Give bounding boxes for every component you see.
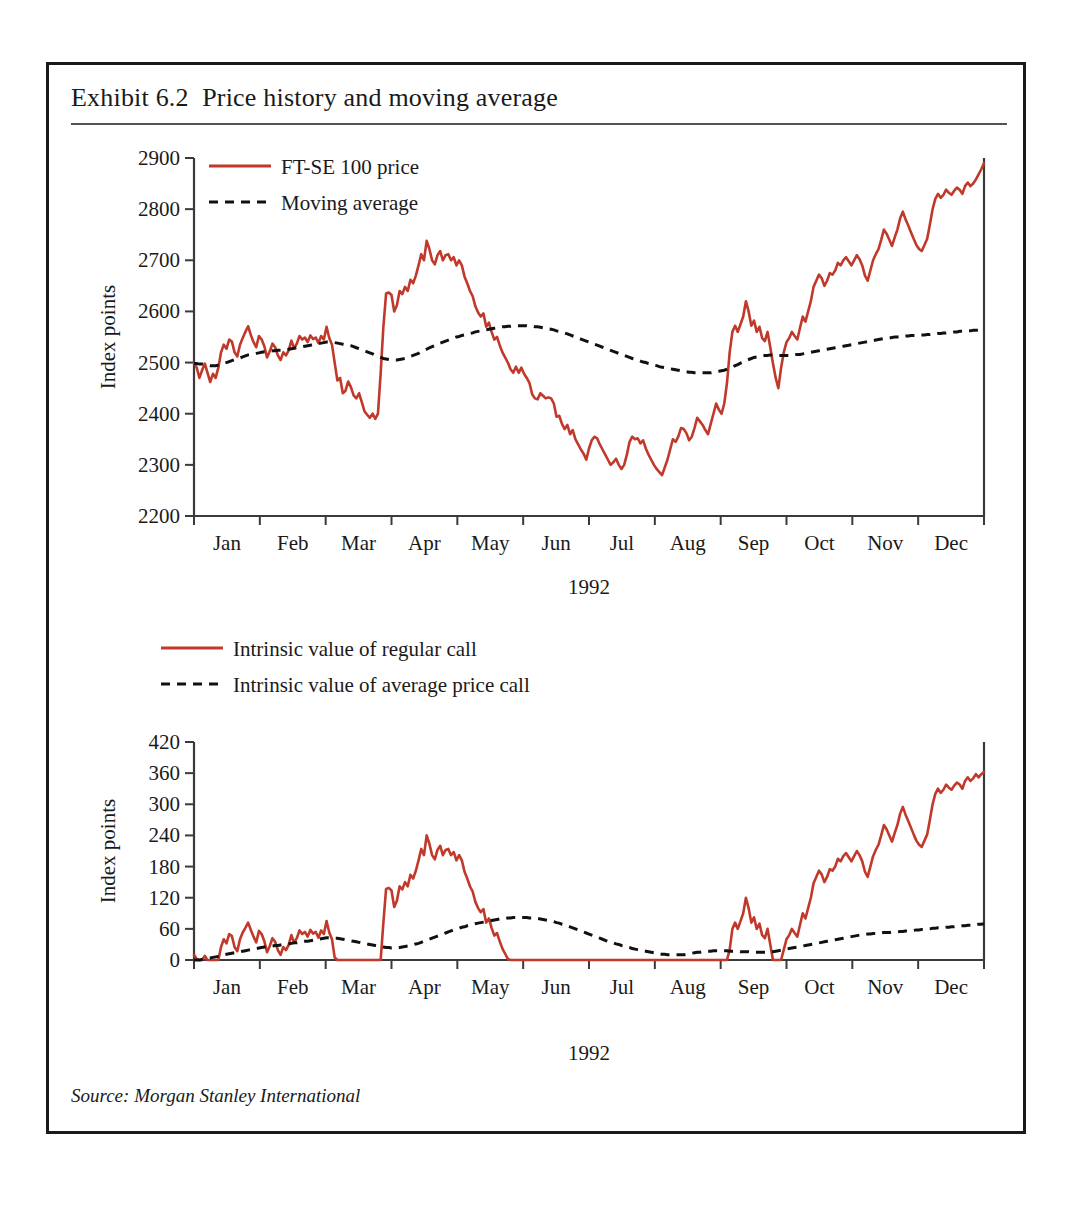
series-line-2 — [194, 326, 984, 373]
price-history-chart: 22002300240025002600270028002900JanFebMa… — [79, 140, 1009, 610]
y-axis-tick-label: 2300 — [138, 453, 180, 477]
x-axis-title: 1992 — [568, 575, 610, 599]
legend-label-2: Intrinsic value of average price call — [233, 673, 530, 697]
series-line-1 — [194, 772, 984, 960]
x-axis-month-label: Nov — [867, 531, 904, 555]
y-axis-tick-label: 60 — [159, 917, 180, 941]
x-axis-month-label: Jun — [541, 531, 571, 555]
x-axis-month-label: Jul — [610, 531, 635, 555]
x-axis-month-label: Oct — [804, 975, 834, 999]
source-note: Source: Morgan Stanley International — [71, 1085, 360, 1107]
x-axis-month-label: Mar — [341, 975, 376, 999]
intrinsic-value-chart: 060120180240300360420JanFebMarAprMayJunJ… — [79, 620, 1009, 1060]
y-axis-tick-label: 180 — [149, 855, 181, 879]
x-axis-month-label: Jul — [610, 975, 635, 999]
y-axis-title: Index points — [96, 285, 120, 389]
x-axis-month-label: Sep — [738, 531, 770, 555]
x-axis-month-label: Apr — [408, 975, 441, 999]
y-axis-tick-label: 2800 — [138, 197, 180, 221]
x-axis-month-label: Aug — [670, 531, 707, 555]
x-axis-month-label: May — [471, 531, 510, 555]
y-axis-tick-label: 2900 — [138, 146, 180, 170]
y-axis-tick-label: 300 — [149, 792, 181, 816]
x-axis-month-label: Nov — [867, 975, 904, 999]
x-axis-month-label: Dec — [934, 531, 968, 555]
x-axis-month-label: Jun — [541, 975, 571, 999]
y-axis-tick-label: 2700 — [138, 248, 180, 272]
y-axis-tick-label: 2500 — [138, 351, 180, 375]
y-axis-tick-label: 360 — [149, 761, 181, 785]
legend-label-1: Intrinsic value of regular call — [233, 637, 477, 661]
y-axis-title: Index points — [96, 799, 120, 903]
y-axis-tick-label: 120 — [149, 886, 181, 910]
x-axis-month-label: Mar — [341, 531, 376, 555]
legend-label-2: Moving average — [281, 191, 418, 215]
x-axis-month-label: Dec — [934, 975, 968, 999]
intrinsic-value-svg: 060120180240300360420JanFebMarAprMayJunJ… — [79, 620, 1009, 1060]
title-divider — [71, 123, 1007, 125]
x-axis-month-label: Jan — [213, 531, 241, 555]
x-axis-title: 1992 — [568, 1041, 610, 1065]
y-axis-tick-label: 0 — [170, 948, 181, 972]
x-axis-month-label: Feb — [277, 531, 309, 555]
x-axis-month-label: Jan — [213, 975, 241, 999]
price-history-svg: 22002300240025002600270028002900JanFebMa… — [79, 140, 1009, 610]
series-line-2 — [194, 917, 984, 960]
x-axis-month-label: Oct — [804, 531, 834, 555]
x-axis-month-label: Apr — [408, 531, 441, 555]
y-axis-tick-label: 2200 — [138, 504, 180, 528]
page-title: Exhibit 6.2 Price history and moving ave… — [71, 83, 558, 113]
x-axis-month-label: Aug — [670, 975, 707, 999]
legend-label-1: FT-SE 100 price — [281, 155, 419, 179]
y-axis-tick-label: 2600 — [138, 299, 180, 323]
y-axis-tick-label: 2400 — [138, 402, 180, 426]
x-axis-month-label: May — [471, 975, 510, 999]
x-axis-month-label: Sep — [738, 975, 770, 999]
y-axis-tick-label: 240 — [149, 823, 181, 847]
y-axis-tick-label: 420 — [149, 730, 181, 754]
exhibit-frame: Exhibit 6.2 Price history and moving ave… — [46, 62, 1026, 1134]
x-axis-month-label: Feb — [277, 975, 309, 999]
